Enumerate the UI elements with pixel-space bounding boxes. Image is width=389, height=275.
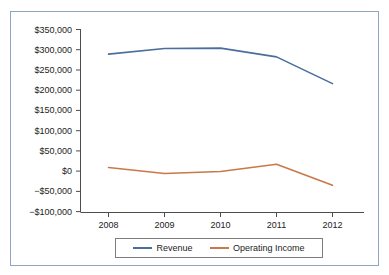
y-tick-label-100000: $100,000: [18, 126, 72, 135]
series-line-revenue: [109, 48, 333, 84]
legend-entry-revenue: Revenue: [133, 244, 192, 253]
y-tick-label-0: $0: [18, 167, 72, 176]
y-tick-label-350000: $350,000: [18, 25, 72, 34]
legend-entry-operating-income: Operating Income: [210, 244, 305, 253]
y-tick-label-200000: $200,000: [18, 86, 72, 95]
x-tick-label-2011: 2011: [267, 221, 286, 230]
y-tick-label-neg100000: −$100,000: [14, 207, 72, 216]
x-tick-label-2009: 2009: [154, 221, 174, 230]
line-chart-plot: [0, 0, 389, 275]
series-line-operating-income: [109, 164, 333, 185]
y-tick-label-50000: $50,000: [18, 146, 72, 155]
y-axis-ticks: [76, 30, 81, 212]
legend-label-operating-income: Operating Income: [233, 244, 305, 253]
x-tick-label-2008: 2008: [98, 221, 118, 230]
legend-swatch-operating-income: [210, 247, 229, 249]
legend-swatch-revenue: [133, 247, 152, 249]
x-axis-ticks: [109, 213, 333, 218]
chart-figure: $350,000 $300,000 $250,000 $200,000 $150…: [0, 0, 389, 275]
y-tick-label-300000: $300,000: [18, 45, 72, 54]
y-tick-label-250000: $250,000: [18, 66, 72, 75]
x-tick-label-2012: 2012: [322, 221, 342, 230]
y-tick-label-neg50000: −$50,000: [14, 187, 72, 196]
chart-legend: Revenue Operating Income: [115, 238, 323, 258]
y-tick-label-150000: $150,000: [18, 106, 72, 115]
legend-label-revenue: Revenue: [156, 244, 192, 253]
x-tick-label-2010: 2010: [210, 221, 230, 230]
